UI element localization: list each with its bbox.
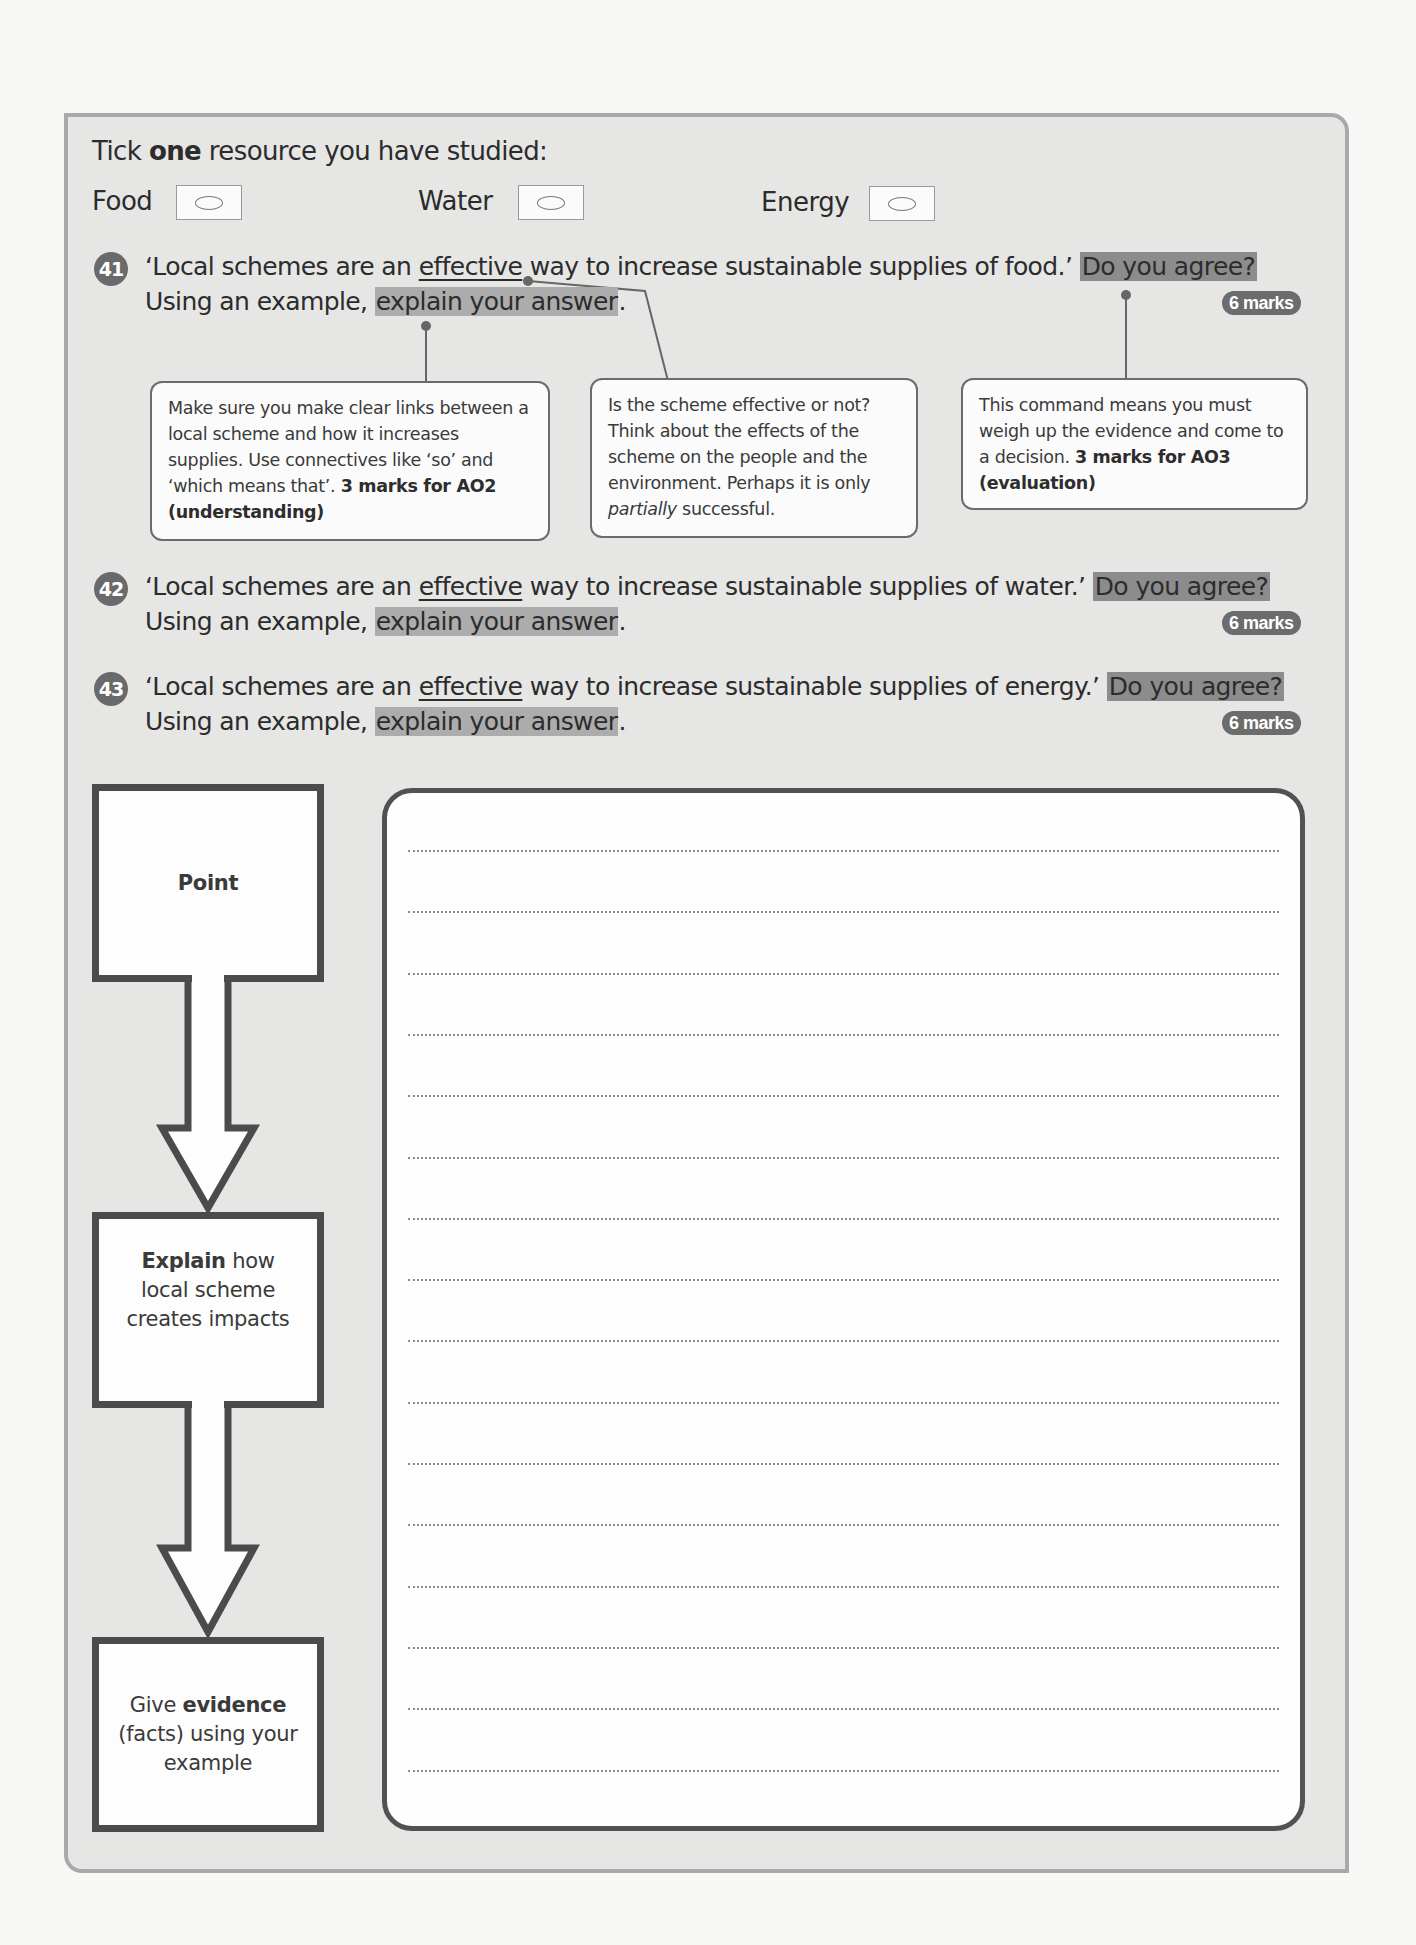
- marks-badge: 6 marks: [1222, 291, 1301, 315]
- question-42-line2: Using an example, explain your answer.: [145, 607, 626, 636]
- question-41-line1: ‘Local schemes are an effective way to i…: [145, 252, 1257, 281]
- tick-box-food[interactable]: [176, 185, 242, 220]
- q-text: .: [618, 607, 625, 636]
- underlined-keyword: effective: [419, 572, 523, 601]
- answer-line[interactable]: [408, 973, 1279, 975]
- prompt-bold: one: [149, 136, 201, 166]
- callout-italic: partially: [608, 499, 677, 519]
- q-text: Using an example,: [145, 607, 375, 636]
- marks-badge: 6 marks: [1222, 711, 1301, 735]
- marks-badge: 6 marks: [1222, 611, 1301, 635]
- option-label-energy: Energy: [761, 187, 849, 217]
- prompt-prefix: Tick: [92, 136, 149, 166]
- answer-line[interactable]: [408, 1647, 1279, 1649]
- flow-text: (facts) using your example: [118, 1722, 297, 1775]
- q-text: way to increase sustainable supplies of …: [522, 252, 1079, 281]
- oval-icon: [888, 197, 916, 211]
- q-text: ‘Local schemes are an: [145, 572, 419, 601]
- q-text: way to increase sustainable supplies of …: [522, 572, 1092, 601]
- callout-ao2: Make sure you make clear links between a…: [150, 381, 550, 541]
- answer-line[interactable]: [408, 1218, 1279, 1220]
- flow-bold: Explain: [141, 1249, 225, 1273]
- option-label-water: Water: [418, 186, 492, 216]
- answer-line[interactable]: [408, 1708, 1279, 1710]
- flow-bold: evidence: [182, 1693, 286, 1717]
- tick-box-water[interactable]: [518, 185, 584, 220]
- answer-line[interactable]: [408, 1095, 1279, 1097]
- question-42-line1: ‘Local schemes are an effective way to i…: [145, 572, 1270, 601]
- question-number-badge: 42: [94, 572, 128, 606]
- answer-line[interactable]: [408, 1157, 1279, 1159]
- question-43-line1: ‘Local schemes are an effective way to i…: [145, 672, 1284, 701]
- command-highlight: Do you agree?: [1093, 572, 1271, 601]
- question-number-badge: 43: [94, 672, 128, 706]
- callout-effective: Is the scheme effective or not? Think ab…: [590, 378, 918, 538]
- callout-ao3: This command means you must weigh up the…: [961, 378, 1308, 510]
- q-text: .: [618, 287, 625, 316]
- explain-highlight: explain your answer: [375, 707, 619, 736]
- command-highlight: Do you agree?: [1080, 252, 1258, 281]
- underlined-keyword: effective: [419, 252, 523, 281]
- q-text: Using an example,: [145, 707, 375, 736]
- question-43-line2: Using an example, explain your answer.: [145, 707, 626, 736]
- answer-line[interactable]: [408, 1463, 1279, 1465]
- answer-line[interactable]: [408, 850, 1279, 852]
- tick-box-energy[interactable]: [869, 186, 935, 221]
- resource-prompt: Tick one resource you have studied:: [92, 136, 547, 166]
- flow-box-explain: Explain how local scheme creates impacts: [92, 1212, 324, 1408]
- answer-line[interactable]: [408, 1524, 1279, 1526]
- q-text: way to increase sustainable supplies of …: [522, 672, 1106, 701]
- oval-icon: [537, 196, 565, 210]
- question-41-line2: Using an example, explain your answer.: [145, 287, 626, 316]
- answer-line[interactable]: [408, 911, 1279, 913]
- answer-area[interactable]: [382, 788, 1305, 1831]
- explain-highlight: explain your answer: [375, 607, 619, 636]
- flow-text: Give: [130, 1693, 183, 1717]
- q-text: ‘Local schemes are an: [145, 672, 419, 701]
- q-text: .: [618, 707, 625, 736]
- explain-highlight: explain your answer: [375, 287, 619, 316]
- callout-text: successful.: [677, 499, 775, 519]
- prompt-suffix: resource you have studied:: [201, 136, 547, 166]
- oval-icon: [195, 196, 223, 210]
- callout-text: Is the scheme effective or not? Think ab…: [608, 395, 870, 493]
- answer-line[interactable]: [408, 1402, 1279, 1404]
- q-text: Using an example,: [145, 287, 375, 316]
- answer-line[interactable]: [408, 1770, 1279, 1772]
- answer-line[interactable]: [408, 1586, 1279, 1588]
- option-label-food: Food: [92, 186, 152, 216]
- answer-line[interactable]: [408, 1034, 1279, 1036]
- command-highlight: Do you agree?: [1107, 672, 1285, 701]
- q-text: ‘Local schemes are an: [145, 252, 419, 281]
- flow-box-point: Point: [92, 784, 324, 982]
- flow-box-evidence: Give evidence (facts) using your example: [92, 1637, 324, 1832]
- answer-line[interactable]: [408, 1279, 1279, 1281]
- question-number-badge: 41: [94, 252, 128, 286]
- underlined-keyword: effective: [419, 672, 523, 701]
- answer-line[interactable]: [408, 1340, 1279, 1342]
- flow-bold: Point: [178, 871, 239, 895]
